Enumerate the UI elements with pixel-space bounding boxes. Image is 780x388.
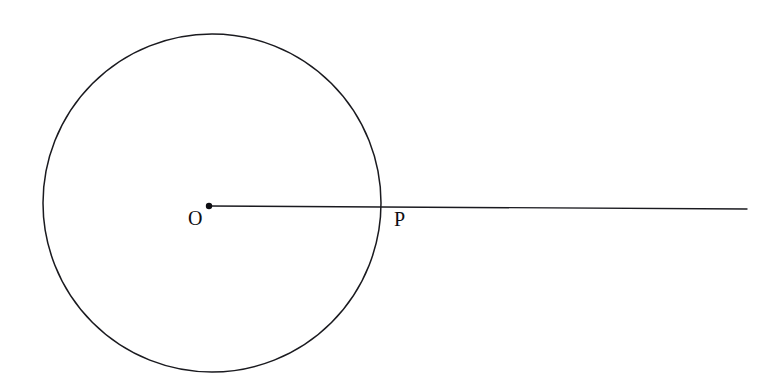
ray-line: [209, 206, 747, 209]
circle-outline: [43, 34, 381, 372]
center-point-dot: [206, 203, 212, 209]
geometry-figure: O P: [0, 0, 780, 388]
figure-canvas: [0, 0, 780, 388]
point-label-p: P: [394, 209, 405, 229]
point-label-o: O: [188, 208, 203, 228]
